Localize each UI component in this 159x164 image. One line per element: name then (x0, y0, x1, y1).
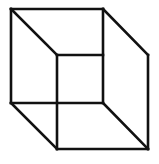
edge-diag-bottom-left (11, 103, 57, 149)
edge-diag-bottom-right (103, 103, 148, 149)
edge-diag-top-right (103, 9, 148, 55)
edge-diag-top-left (11, 9, 57, 55)
necker-cube-diagram (0, 0, 159, 164)
